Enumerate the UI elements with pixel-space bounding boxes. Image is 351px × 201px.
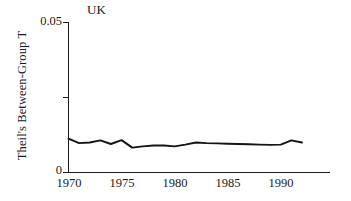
data-series-group: [69, 139, 303, 148]
x-tick-label-1980: 1980: [155, 176, 195, 191]
y-axis-title: Theil's Between-Group T: [15, 8, 30, 184]
x-tick-label-1970: 1970: [49, 176, 89, 191]
data-line-theil-t: [69, 139, 303, 148]
axes-group: [63, 22, 330, 173]
x-tick-label-1990: 1990: [261, 176, 301, 191]
x-tick-label-1975: 1975: [102, 176, 142, 191]
chart-figure: UK Theil's Between-Group T 0.05 0 1970 1…: [0, 0, 351, 201]
y-tick-label-top: 0.05: [8, 14, 62, 29]
x-tick-label-1985: 1985: [208, 176, 248, 191]
panel-label-uk: UK: [87, 2, 106, 18]
